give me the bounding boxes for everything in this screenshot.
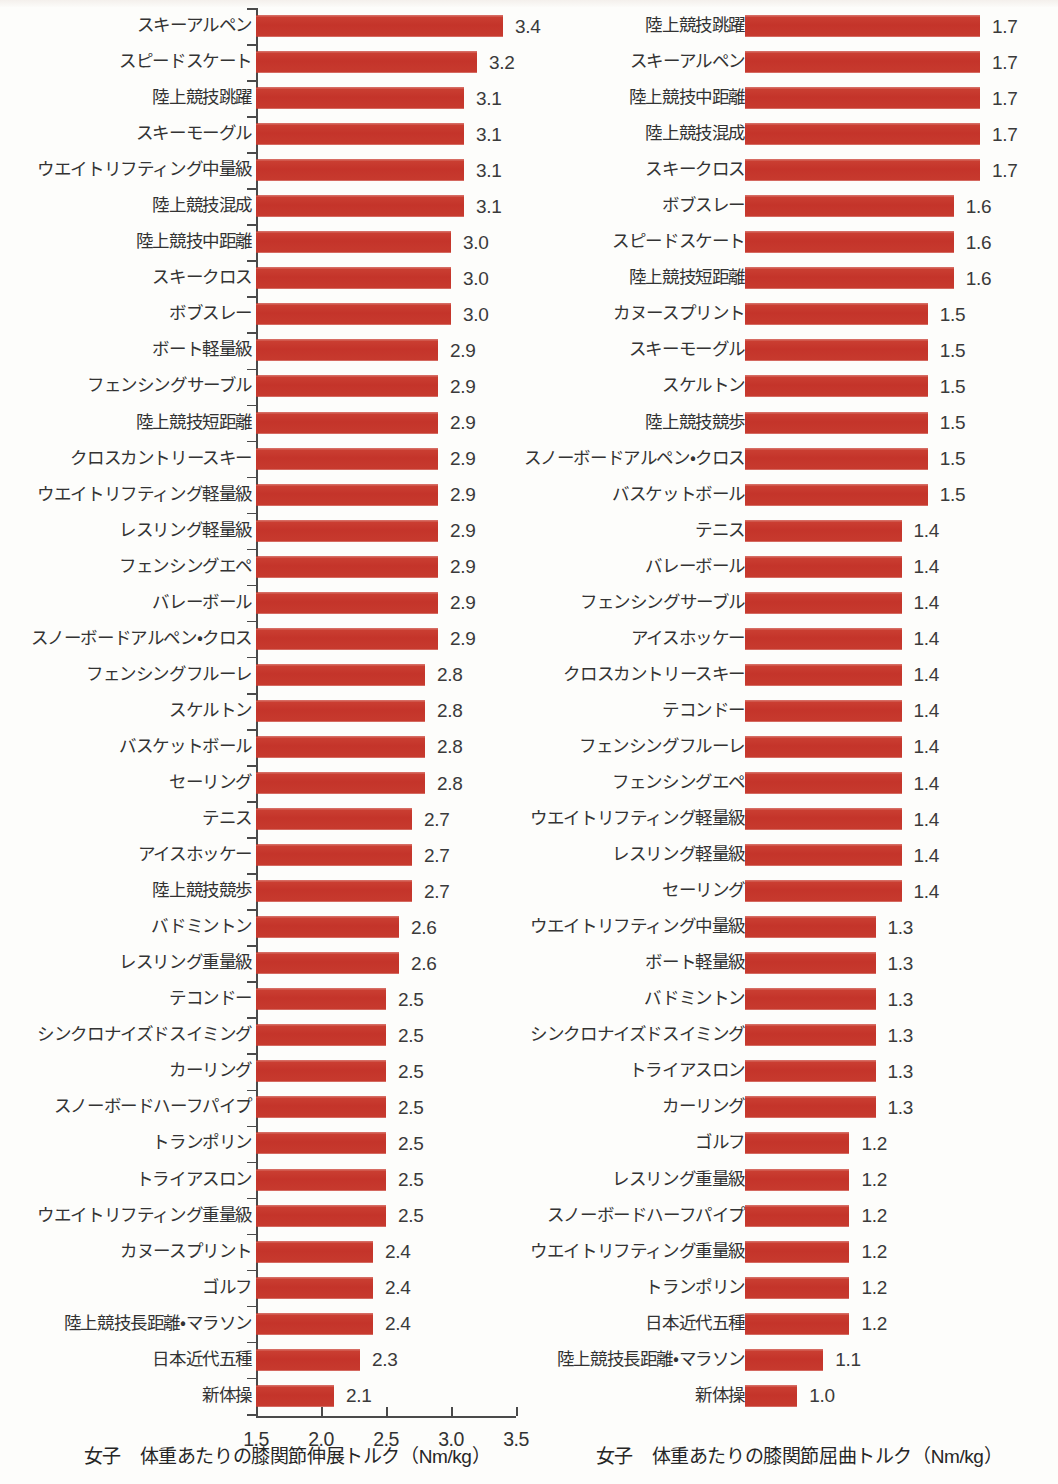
bar [745,88,980,109]
bar-row: スノーボードハーフパイプ1.2 [528,1198,1058,1234]
category-label: スキーアルペン [137,17,252,35]
category-label: ウエイトリフティング重量級 [530,1243,745,1261]
y-axis-tick [247,1378,256,1380]
bar [745,1385,797,1406]
x-axis-tick [321,1407,323,1416]
bar-value-label: 2.5 [398,1169,424,1191]
bar-track: 2.9 [256,592,516,613]
y-axis-tick [247,405,256,407]
bar-row: テニス2.7 [0,801,530,837]
bar-value-label: 1.5 [940,448,966,470]
bar-track: 1.5 [745,448,1006,469]
category-label: トランポリン [152,1135,252,1153]
category-label: 陸上競技長距離・マラソン [64,1315,252,1333]
bar-row: アイスホッケー2.7 [0,837,530,873]
category-label: 陸上競技長距離・マラソン [557,1351,745,1369]
y-axis-tick [247,116,256,118]
bar-value-label: 1.5 [940,484,966,506]
bar [256,484,438,505]
bar [256,1133,386,1154]
bar-track: 3.1 [256,124,516,145]
y-axis-tick [247,1306,256,1308]
y-axis-tick [247,44,256,46]
figure-page: スキーアルペン3.4スピードスケート3.2陸上競技跳躍3.1スキーモーグル3.1… [0,0,1058,1484]
bar-track: 1.1 [745,1349,1006,1370]
bar [745,340,928,361]
bar [256,160,464,181]
bar-value-label: 3.0 [463,303,489,325]
bar-row: バドミントン1.3 [528,981,1058,1017]
bar [256,1025,386,1046]
bar-value-label: 1.3 [888,988,914,1010]
y-axis-tick [247,549,256,551]
bar-row: フェンシングサーブル1.4 [528,585,1058,621]
bar [256,1097,386,1118]
category-label: トライアスロン [629,1063,745,1081]
bar-value-label: 2.1 [346,1385,372,1407]
bar-value-label: 1.4 [914,808,940,830]
category-label: 陸上競技中距離 [629,89,745,107]
y-axis-tick [247,152,256,154]
category-label: ウエイトリフティング軽量級 [530,810,745,828]
category-label: スキークロス [152,270,252,288]
category-label: フェンシングフルーレ [86,666,252,684]
y-axis-tick [247,693,256,695]
bar-track: 1.4 [745,628,1006,649]
category-label: スノーボードハーフパイプ [547,1207,745,1225]
bar-value-label: 2.4 [385,1277,411,1299]
bar-value-label: 2.4 [385,1313,411,1335]
bar-track: 1.2 [745,1241,1006,1262]
bar-row: スケルトン2.8 [0,693,530,729]
bar-row: ウエイトリフティング中量級3.1 [0,152,530,188]
bar-value-label: 2.9 [450,628,476,650]
y-axis-tick [247,296,256,298]
category-label: 日本近代五種 [152,1351,252,1369]
x-axis-tick [256,1407,258,1416]
bar-row: 陸上競技長距離・マラソン1.1 [528,1342,1058,1378]
bar-track: 2.9 [256,484,516,505]
bar-row: ウエイトリフティング重量級2.5 [0,1198,530,1234]
category-label: ゴルフ [202,1279,252,1297]
bar-row: ウエイトリフティング軽量級1.4 [528,801,1058,837]
bar-track: 1.4 [745,845,1006,866]
y-axis-tick [247,801,256,803]
bar-value-label: 1.4 [914,736,940,758]
bar-value-label: 2.7 [424,844,450,866]
category-label: 新体操 [695,1387,745,1405]
bar [256,736,425,757]
bar [256,1205,386,1226]
category-label: バスケットボール [119,738,252,756]
category-label: フェンシングエペ [612,774,745,792]
bar [256,1169,386,1190]
bar [256,845,412,866]
bar-track: 3.1 [256,160,516,181]
bar-row: フェンシングサーブル2.9 [0,368,530,404]
category-label: テコンドー [169,991,252,1009]
bar-track: 1.2 [745,1313,1006,1334]
bar-row: スキークロス1.7 [528,152,1058,188]
bar-row: セーリング1.4 [528,873,1058,909]
bar-value-label: 1.4 [914,556,940,578]
category-label: 新体操 [202,1387,252,1405]
bar-row: バスケットボール1.5 [528,477,1058,513]
bar-value-label: 1.6 [966,231,992,253]
bar-value-label: 1.4 [914,772,940,794]
bar-track: 3.4 [256,16,516,37]
x-axis-line-left [256,1416,516,1418]
bar [745,268,954,289]
bar-value-label: 1.2 [861,1132,887,1154]
bar-row: バレーボール1.4 [528,549,1058,585]
bar [256,953,399,974]
category-label: レスリング軽量級 [612,846,745,864]
bar [745,520,902,541]
category-label: スキーモーグル [136,125,252,143]
bar-rows-right: 陸上競技跳躍1.7スキーアルペン1.7陸上競技中距離1.7陸上競技混成1.7スキ… [528,8,1058,1414]
bar-row: クロスカントリースキー2.9 [0,441,530,477]
category-label: ウエイトリフティング中量級 [530,918,745,936]
bar-track: 1.6 [745,232,1006,253]
category-label: 陸上競技短距離 [136,414,252,432]
y-axis-tick [247,981,256,983]
bar-value-label: 3.0 [463,231,489,253]
bar-value-label: 1.5 [940,375,966,397]
bar-value-label: 2.5 [398,1205,424,1227]
